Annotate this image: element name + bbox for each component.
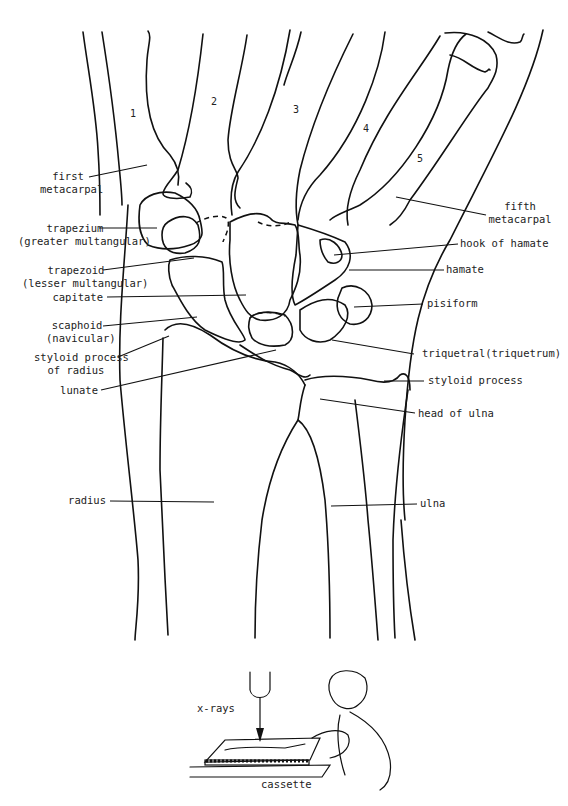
label-styloid-process-of-radius: styloid process of radius	[34, 351, 118, 377]
label-line: (greater multangular)	[18, 235, 132, 248]
label-x-rays: x-rays	[197, 702, 235, 715]
digit-number-4: 4	[363, 123, 369, 134]
digit-number-2: 2	[211, 96, 217, 107]
label-line: of radius	[34, 364, 118, 377]
label-trapezoid: trapezoid (lesser multangular)	[22, 264, 130, 290]
label-trapezium: trapezium (greater multangular)	[18, 222, 132, 248]
label-line: capitate	[40, 291, 103, 304]
label-line: trapezium	[18, 222, 132, 235]
label-lunate: lunate	[40, 384, 98, 397]
label-line: head of ulna	[418, 407, 494, 420]
digit-number-5: 5	[417, 153, 423, 164]
label-line: first	[40, 170, 96, 183]
label-line: metacarpal	[40, 183, 96, 196]
label-line: hamate	[446, 263, 484, 276]
label-line: fifth	[486, 200, 554, 213]
label-line: metacarpal	[486, 213, 554, 226]
label-line: (lesser multangular)	[22, 277, 130, 290]
label-line: (navicular)	[46, 332, 108, 345]
label-triquetral: triquetral(triquetrum)	[422, 347, 561, 360]
label-ulna: ulna	[420, 497, 445, 510]
label-pisiform: pisiform	[427, 297, 478, 310]
label-line: lunate	[40, 384, 98, 397]
label-hook-of-hamate: hook of hamate	[460, 237, 549, 250]
wrist-diagram	[0, 0, 568, 806]
label-styloid-process: styloid process	[428, 374, 523, 387]
label-line: pisiform	[427, 297, 478, 310]
label-capitate: capitate	[40, 291, 103, 304]
label-line: ulna	[420, 497, 445, 510]
label-line: triquetral(triquetrum)	[422, 347, 561, 360]
label-cassette: cassette	[261, 778, 312, 791]
label-first-metacarpal: first metacarpal	[40, 170, 96, 196]
label-line: trapezoid	[22, 264, 130, 277]
label-line: scaphoid	[46, 319, 108, 332]
xray-tube-icon	[250, 672, 270, 698]
carpal-bones	[139, 192, 410, 390]
label-line: hook of hamate	[460, 237, 549, 250]
inset-xray-setup	[190, 671, 391, 790]
digit-number-1: 1	[130, 108, 136, 119]
person-head-icon	[329, 671, 367, 709]
metacarpal-3	[284, 32, 385, 225]
label-head-of-ulna: head of ulna	[418, 407, 494, 420]
label-scaphoid: scaphoid (navicular)	[46, 319, 108, 345]
metacarpal-2	[228, 30, 290, 215]
label-hamate: hamate	[446, 263, 484, 276]
label-line: radius	[50, 494, 106, 507]
digit-number-3: 3	[293, 104, 299, 115]
label-line: styloid process	[428, 374, 523, 387]
metacarpal-4-5	[330, 30, 543, 520]
label-fifth-metacarpal: fifth metacarpal	[486, 200, 554, 226]
label-line: styloid process	[34, 351, 118, 364]
label-radius: radius	[50, 494, 106, 507]
